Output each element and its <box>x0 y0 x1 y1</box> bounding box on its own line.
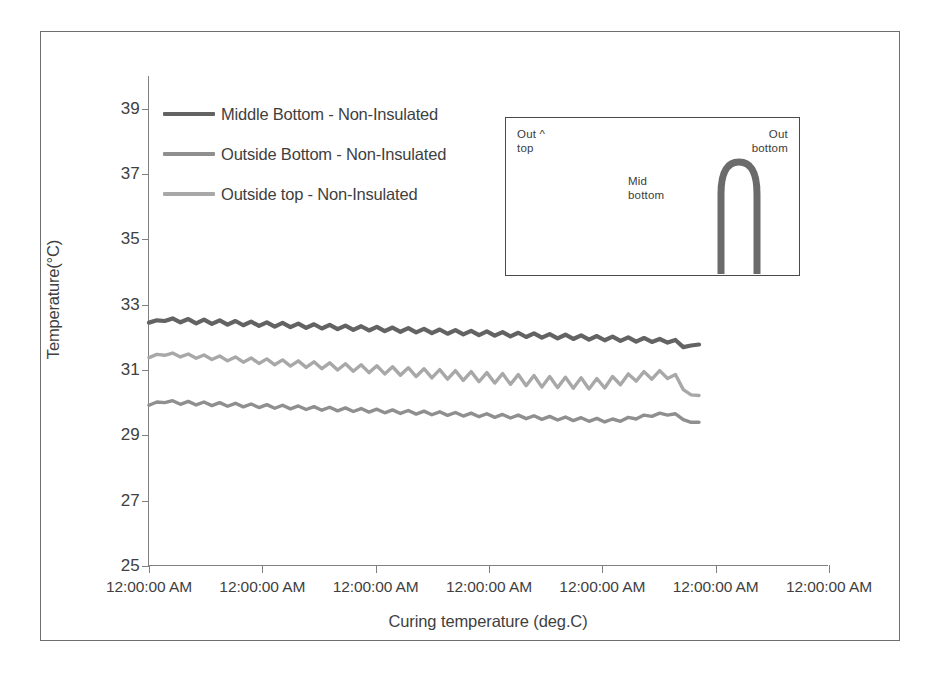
legend-item-label: Outside top - Non-Insulated <box>221 185 417 204</box>
y-tick-mark <box>142 305 149 306</box>
inset-diagram: Out ^ top Mid bottom Out bottom <box>505 117 800 276</box>
y-tick-label: 29 <box>121 425 140 445</box>
legend-item[interactable]: Outside Bottom - Non-Insulated <box>163 134 493 174</box>
y-tick-mark <box>142 239 149 240</box>
x-tick-mark <box>376 565 377 573</box>
y-tick-label: 25 <box>121 556 140 576</box>
data-series-line <box>149 318 699 347</box>
x-tick-mark <box>716 565 717 573</box>
x-tick-mark <box>489 565 490 573</box>
legend-item[interactable]: Middle Bottom - Non-Insulated <box>163 94 493 134</box>
x-tick-label: 12:00:00 AM <box>559 578 645 596</box>
legend-item-label: Middle Bottom - Non-Insulated <box>221 105 438 124</box>
x-tick-mark <box>262 565 263 573</box>
x-tick-label: 12:00:00 AM <box>106 578 192 596</box>
x-tick-mark <box>602 565 603 573</box>
y-tick-label: 33 <box>121 295 140 315</box>
y-tick-label: 37 <box>121 164 140 184</box>
data-series-line <box>149 401 699 423</box>
y-tick-label: 39 <box>121 99 140 119</box>
x-tick-label: 12:00:00 AM <box>333 578 419 596</box>
y-tick-label: 35 <box>121 229 140 249</box>
x-tick-label: 12:00:00 AM <box>446 578 532 596</box>
chart-figure: Temperature(°C) 2527293133353739 12:00:0… <box>0 0 941 678</box>
x-tick-label: 12:00:00 AM <box>219 578 305 596</box>
chart-legend: Middle Bottom - Non-Insulated Outside Bo… <box>163 94 493 214</box>
data-series-line <box>149 353 699 395</box>
y-tick-label: 31 <box>121 360 140 380</box>
y-tick-mark <box>142 174 149 175</box>
legend-item[interactable]: Outside top - Non-Insulated <box>163 174 493 214</box>
legend-color-swatch <box>163 112 215 116</box>
inset-label-out-bottom: Out bottom <box>752 127 788 155</box>
y-tick-mark <box>142 435 149 436</box>
x-tick-label: 12:00:00 AM <box>786 578 872 596</box>
y-tick-mark <box>142 370 149 371</box>
legend-color-swatch <box>163 152 215 156</box>
legend-item-label: Outside Bottom - Non-Insulated <box>221 145 446 164</box>
x-tick-mark <box>829 565 830 573</box>
y-tick-mark <box>142 501 149 502</box>
y-tick-mark <box>142 566 149 567</box>
y-axis-title: Temperature(°C) <box>44 240 63 359</box>
x-axis-title: Curing temperature (deg.C) <box>148 612 828 631</box>
y-tick-mark <box>142 109 149 110</box>
y-tick-label: 27 <box>121 491 140 511</box>
x-tick-mark <box>149 565 150 573</box>
x-tick-label: 12:00:00 AM <box>673 578 759 596</box>
inset-label-mid-bottom: Mid bottom <box>628 174 664 202</box>
inset-label-out-top: Out ^ top <box>517 127 545 155</box>
legend-color-swatch <box>163 192 215 196</box>
